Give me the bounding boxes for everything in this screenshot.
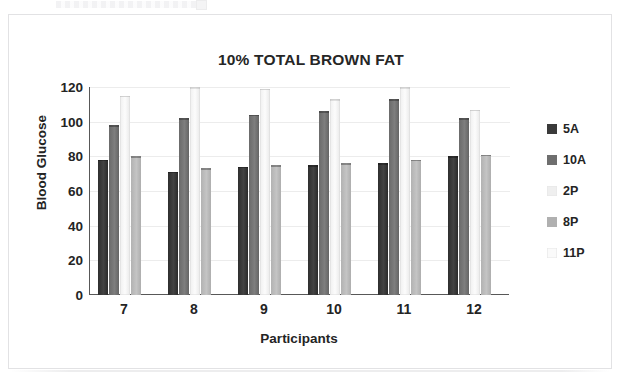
y-axis-tick-120: 120 xyxy=(60,80,83,95)
x-axis-tick-11: 11 xyxy=(369,301,439,317)
bar-group-11 xyxy=(370,87,440,295)
legend-label-10A: 10A xyxy=(563,153,586,167)
bar-8P-10 xyxy=(341,163,351,295)
bar-group-12 xyxy=(440,87,510,295)
chart-figure-frame: 10% TOTAL BROWN FAT Blood Glucose 120100… xyxy=(8,14,612,369)
legend-label-5A: 5A xyxy=(563,122,579,136)
bar-8P-12 xyxy=(481,155,491,295)
legend-swatch-11P-icon xyxy=(547,248,557,258)
legend-swatch-10A-icon xyxy=(547,155,557,165)
bar-2P-11 xyxy=(400,87,410,295)
bar-2P-12 xyxy=(470,110,480,295)
y-axis-tick-0: 0 xyxy=(75,288,83,303)
scan-artifact-box-icon xyxy=(196,0,207,10)
legend-item-2P[interactable]: 2P xyxy=(547,175,613,206)
bar-5A-8 xyxy=(168,172,178,295)
bar-2P-9 xyxy=(260,89,270,295)
y-axis-tick-20: 20 xyxy=(68,253,83,268)
bar-group-10 xyxy=(300,87,370,295)
legend-label-8P: 8P xyxy=(563,215,578,229)
bar-group-9 xyxy=(230,87,300,295)
bar-5A-12 xyxy=(448,156,458,295)
x-axis-title: Participants xyxy=(89,331,509,346)
bar-2P-7 xyxy=(120,96,130,295)
y-axis-tick-40: 40 xyxy=(68,218,83,233)
bar-8P-8 xyxy=(201,168,211,295)
bar-5A-9 xyxy=(238,167,248,295)
bar-group-7 xyxy=(90,87,160,295)
bar-10A-8 xyxy=(179,118,189,295)
legend-swatch-2P-icon xyxy=(547,186,557,196)
legend-item-5A[interactable]: 5A xyxy=(547,113,613,144)
bar-5A-10 xyxy=(308,165,318,295)
x-axis-tick-8: 8 xyxy=(159,301,229,317)
figure-shadow xyxy=(10,370,610,372)
x-axis-tick-7: 7 xyxy=(89,301,159,317)
bar-2P-8 xyxy=(190,87,200,295)
scan-artifact-text xyxy=(56,1,206,8)
bar-groups xyxy=(90,87,510,295)
y-axis-tick-labels: 120100806040200 xyxy=(31,87,83,295)
legend-item-11P[interactable]: 11P xyxy=(547,237,613,268)
legend-item-10A[interactable]: 10A xyxy=(547,144,613,175)
bar-10A-9 xyxy=(249,115,259,295)
y-axis-tick-100: 100 xyxy=(60,114,83,129)
y-axis-tick-80: 80 xyxy=(68,149,83,164)
y-axis-tick-60: 60 xyxy=(68,184,83,199)
chart-title: 10% TOTAL BROWN FAT xyxy=(9,51,613,69)
bar-8P-11 xyxy=(411,160,421,295)
legend-item-8P[interactable]: 8P xyxy=(547,206,613,237)
bar-group-8 xyxy=(160,87,230,295)
x-axis-tick-9: 9 xyxy=(229,301,299,317)
bar-5A-11 xyxy=(378,163,388,295)
bar-8P-9 xyxy=(271,165,281,295)
legend-label-11P: 11P xyxy=(563,246,585,260)
bar-8P-7 xyxy=(131,156,141,295)
bar-2P-10 xyxy=(330,99,340,295)
bar-10A-10 xyxy=(319,111,329,295)
plot-area xyxy=(89,87,509,295)
x-axis-tick-10: 10 xyxy=(299,301,369,317)
bar-10A-11 xyxy=(389,99,399,295)
bar-10A-12 xyxy=(459,118,469,295)
legend-swatch-8P-icon xyxy=(547,217,557,227)
legend-label-2P: 2P xyxy=(563,184,578,198)
legend-swatch-5A-icon xyxy=(547,124,557,134)
chart-legend: 5A10A2P8P11P xyxy=(547,113,613,268)
bar-10A-7 xyxy=(109,125,119,295)
x-axis-tick-labels: 789101112 xyxy=(89,301,509,317)
bar-5A-7 xyxy=(98,160,108,295)
x-axis-tick-12: 12 xyxy=(439,301,509,317)
